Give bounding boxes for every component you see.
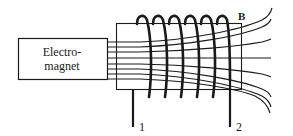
coil-turn [153, 16, 167, 97]
coil [137, 16, 230, 97]
electromagnet-label-line2: magnet [44, 59, 80, 73]
field-line [107, 64, 271, 77]
electromagnet-label-line1: Electro- [43, 45, 82, 59]
coil-turn [169, 16, 183, 97]
terminal-2-label: 2 [236, 120, 242, 134]
field-line [107, 39, 271, 52]
field-b-label: B [238, 10, 246, 22]
coil-core-box [117, 24, 242, 90]
electromagnet: Electro- magnet [19, 39, 108, 80]
coil-turn [185, 16, 199, 97]
coil-turn [137, 16, 151, 97]
field-line [107, 8, 272, 42]
electromagnet-coil-diagram: Electro- magnet 1 2 B [0, 0, 293, 136]
terminal-1-label: 1 [139, 120, 145, 134]
